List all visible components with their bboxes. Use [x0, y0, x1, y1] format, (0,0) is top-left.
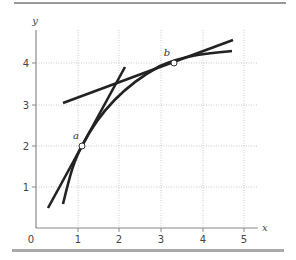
- x-axis-label: x: [262, 222, 268, 233]
- chart: 0 1 2 3 4 5 4 3 2 1 y x a b: [0, 0, 296, 260]
- tick-marks: [32, 63, 244, 232]
- x-tick-4: 4: [200, 234, 206, 245]
- y-axis-label: y: [31, 15, 38, 26]
- point-b-label: b: [164, 47, 170, 58]
- y-tick-3: 3: [23, 100, 29, 111]
- tangent-line-at-b: [63, 40, 233, 103]
- x-tick-2: 2: [116, 234, 122, 245]
- point-a-marker: [79, 143, 85, 149]
- y-tick-4: 4: [23, 58, 29, 69]
- x-tick-5: 5: [241, 234, 247, 245]
- point-a-label: a: [73, 130, 79, 141]
- point-b-marker: [171, 60, 177, 66]
- y-tick-2: 2: [23, 141, 29, 152]
- x-tick-0: 0: [28, 234, 34, 245]
- y-tick-1: 1: [23, 182, 29, 193]
- grid: [36, 30, 258, 228]
- bottom-rule: [12, 249, 284, 252]
- x-tick-1: 1: [75, 234, 81, 245]
- concave-curve: [63, 51, 232, 204]
- x-tick-3: 3: [158, 234, 164, 245]
